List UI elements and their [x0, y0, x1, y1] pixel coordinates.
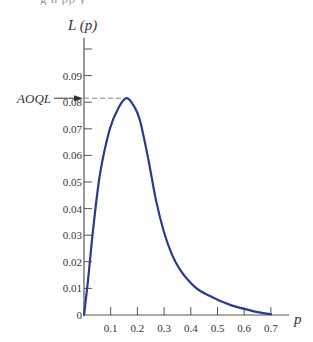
x-tick-label: 0.5 [211, 322, 225, 334]
x-tick-label: 0.4 [184, 322, 198, 334]
y-tick-label: 0.05 [63, 176, 83, 188]
chart-figure: 00.010.020.030.040.050.060.070.080.090.1… [0, 0, 313, 342]
y-tick-label: 0 [77, 309, 83, 321]
y-tick-label: 0.07 [63, 123, 83, 135]
tick-labels: 00.010.020.030.040.050.060.070.080.090.1… [63, 70, 279, 334]
tick-marks [84, 49, 271, 315]
x-axis-label: p [293, 311, 302, 327]
x-tick-label: 0.1 [104, 322, 118, 334]
y-tick-label: 0.04 [63, 203, 83, 215]
x-tick-label: 0.2 [131, 322, 145, 334]
y-tick-label: 0.09 [63, 70, 83, 82]
y-tick-label: 0.01 [63, 282, 82, 294]
y-tick-label: 0.02 [63, 256, 82, 268]
x-tick-label: 0.3 [157, 322, 171, 334]
x-tick-label: 0.7 [264, 322, 278, 334]
axes [84, 38, 289, 315]
y-tick-label: 0.03 [63, 229, 83, 241]
l-of-p-curve [84, 98, 271, 315]
x-tick-label: 0.6 [237, 322, 251, 334]
y-tick-label: 0.06 [63, 149, 83, 161]
y-axis-label: L (p) [67, 17, 97, 34]
aoql-label: AOQL [16, 91, 51, 106]
